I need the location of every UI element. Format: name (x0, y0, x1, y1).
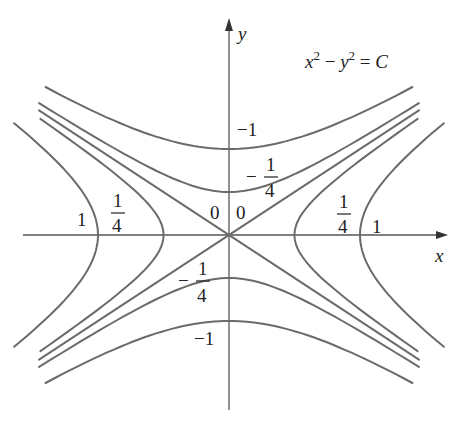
label-c-quarter-right: 1 4 (337, 191, 351, 237)
equation-minus: − (320, 51, 340, 72)
label-c-neg1-bottom: −1 (194, 328, 214, 349)
label-c-0-left: 0 (210, 202, 220, 223)
label-c-neg1-top: −1 (237, 119, 257, 140)
label-c-1-left: 1 (77, 209, 87, 230)
equation-label: x2 − y2 = C (304, 48, 388, 72)
fraction-denominator: 4 (197, 285, 207, 306)
label-c-quarter-left: 1 4 (111, 190, 125, 236)
level-curves-diagram: y x x2 − y2 = C 1 1 4 1 1 4 0 0 −1 − 1 4 (0, 0, 463, 428)
fraction-sign: − (246, 166, 257, 187)
fraction-denominator: 4 (338, 216, 348, 237)
fraction-sign: − (178, 270, 189, 291)
fraction-denominator: 4 (265, 180, 275, 201)
fraction-numerator: 1 (266, 154, 276, 175)
fraction-denominator: 4 (112, 215, 122, 236)
y-axis-label: y (236, 23, 247, 44)
equation-equals: = (355, 51, 375, 72)
diagram-canvas: y x x2 − y2 = C 1 1 4 1 1 4 0 0 −1 − 1 4 (0, 0, 463, 428)
x-axis-arrow-icon (436, 231, 448, 239)
equation-c: C (375, 51, 388, 72)
fraction-numerator: 1 (113, 190, 123, 211)
label-c-0-right: 0 (236, 202, 246, 223)
x-axis-label: x (434, 245, 444, 266)
equation-y: y (338, 51, 349, 72)
y-axis-arrow-icon (225, 18, 233, 31)
label-c-neg-quarter-top: − 1 4 (246, 154, 278, 201)
label-c-1-right: 1 (372, 216, 382, 237)
fraction-numerator: 1 (339, 191, 349, 212)
fraction-numerator: 1 (198, 258, 208, 279)
